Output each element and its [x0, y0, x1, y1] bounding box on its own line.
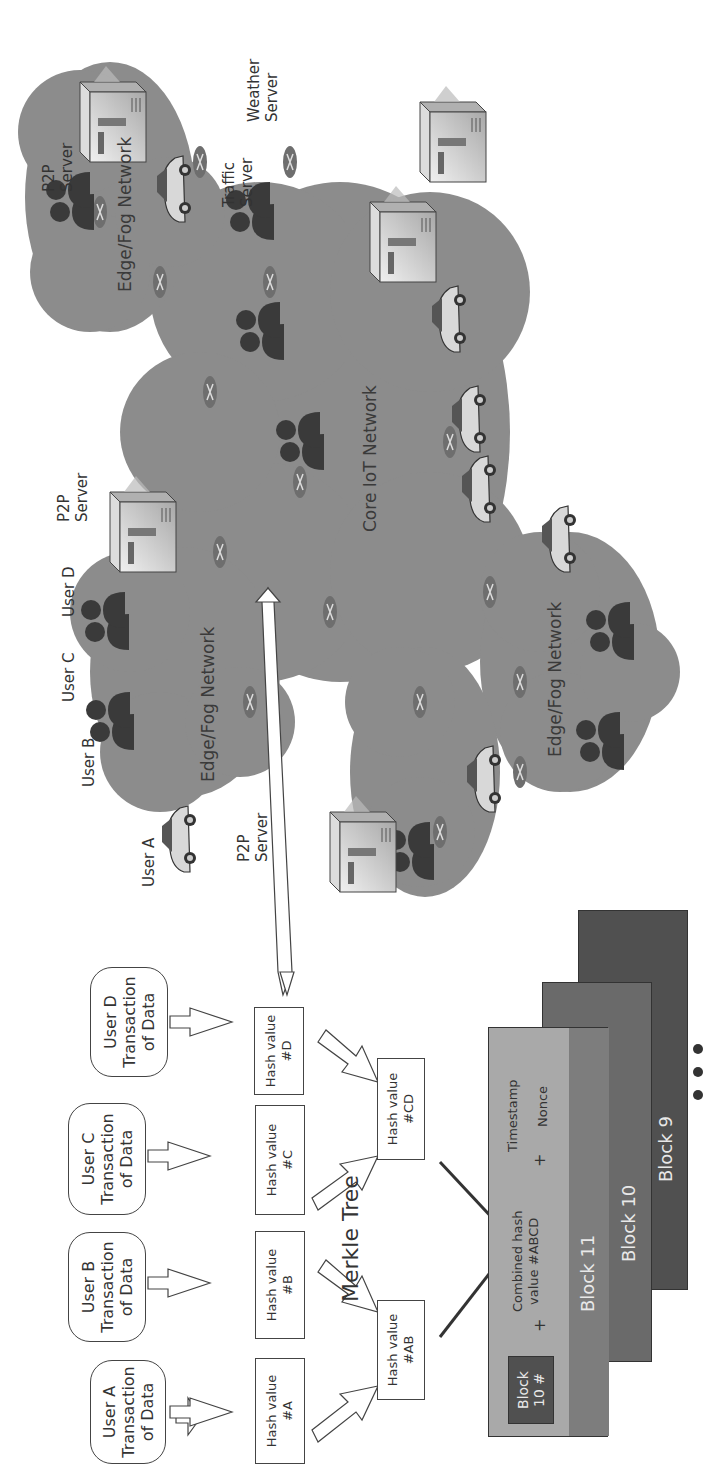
timestamp-field: Timestamp: [505, 1079, 520, 1152]
hash-box-cd: Hash value #CD: [377, 1058, 425, 1160]
server-label-weather: Weather Server: [245, 59, 281, 122]
blockchain-iot-diagram: User A Transaction of Data User B Transa…: [0, 0, 724, 1472]
arrow-d-cd: [318, 1030, 378, 1082]
cloud-label-core-iot: Core IoT Network: [360, 385, 380, 532]
server-label-p2p-bottom: P2P Server: [235, 813, 271, 862]
server-label-p2p-top: P2P Server: [40, 143, 76, 192]
block-9-title: Block 9: [655, 1116, 676, 1182]
ellipsis-dot-2: [693, 1067, 703, 1077]
nonce-field: Nonce: [535, 1086, 550, 1127]
hash-box-ab: Hash value #AB: [377, 1300, 425, 1400]
combined-hash: Combined hash value #ABCD: [510, 1211, 542, 1312]
prev-block-ref: Block 10 #: [508, 1356, 554, 1424]
ellipsis-dot-3: [693, 1044, 703, 1054]
hash-box-b: Hash value #B: [255, 1231, 305, 1339]
cloud-label-edge-fog-users: Edge/Fog Network: [198, 627, 218, 782]
user-label-b: User B: [80, 738, 98, 787]
arrow-c: [148, 1142, 210, 1170]
ellipsis-dot-1: [693, 1090, 703, 1100]
server-label-traffic: Traffic Server: [220, 158, 256, 207]
user-label-a: User A: [140, 838, 158, 887]
hash-box-d: Hash value #D: [254, 1007, 304, 1095]
hash-box-c: Hash value #C: [255, 1105, 305, 1215]
plus-sign-1: +: [530, 1319, 549, 1332]
merkle-tree-title: Merkle Tree: [338, 1175, 363, 1302]
cloud-label-edge-fog-top: Edge/Fog Network: [115, 137, 135, 292]
server-label-p2p-mid: P2P Server: [55, 473, 91, 522]
arrow-a: [170, 1398, 232, 1426]
arrow-b: [148, 1269, 210, 1297]
arrow-a-ab: [312, 1386, 378, 1442]
plus-sign-2: +: [530, 1154, 549, 1167]
user-label-d: User D: [60, 566, 78, 617]
cloud-label-edge-fog-bottom: Edge/Fog Network: [545, 602, 565, 757]
user-label-c: User C: [60, 653, 78, 702]
block-11-title: Block 11: [577, 1235, 598, 1312]
hash-box-a: Hash value #A: [255, 1358, 305, 1464]
arrow-d: [170, 1008, 232, 1036]
block-11-footer: [569, 1028, 609, 1436]
block-10-title: Block 10: [618, 1185, 639, 1262]
